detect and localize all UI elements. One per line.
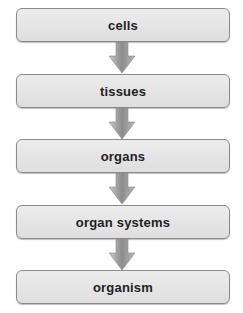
- down-arrow-icon: [109, 239, 135, 271]
- step-label: tissues: [100, 84, 146, 99]
- step-organism: organism: [16, 270, 230, 304]
- step-label: organ systems: [76, 215, 170, 230]
- down-arrow-icon: [109, 42, 135, 74]
- step-label: organism: [93, 280, 153, 295]
- step-organs: organs: [16, 139, 230, 173]
- step-label: cells: [108, 18, 138, 33]
- step-label: organs: [101, 149, 146, 164]
- step-tissues: tissues: [16, 74, 230, 108]
- step-organ-systems: organ systems: [16, 205, 230, 239]
- down-arrow-icon: [109, 108, 135, 140]
- step-cells: cells: [16, 8, 230, 42]
- down-arrow-icon: [109, 173, 135, 205]
